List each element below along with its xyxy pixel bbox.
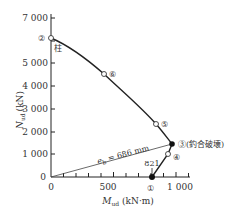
y-tick-0: 0 bbox=[40, 172, 46, 182]
point-6 bbox=[102, 72, 107, 77]
label-point-3: ③(釣合破壊) bbox=[178, 139, 224, 149]
x-tick-1000: 1 000 bbox=[167, 182, 193, 192]
point-1 bbox=[149, 174, 155, 180]
point-3 bbox=[169, 141, 175, 147]
x-tick-500: 500 bbox=[99, 182, 116, 192]
y-axis-label: Nud(kN) bbox=[15, 91, 26, 130]
eb-label: eb = 686 mm bbox=[96, 143, 151, 167]
interaction-chart: 7 000 5 000 4 000 3 000 2 000 1 000 0 0 … bbox=[0, 0, 240, 217]
point-5 bbox=[154, 122, 159, 127]
y-tick-7000: 7 000 bbox=[22, 13, 48, 23]
label-point-4: ④ bbox=[173, 153, 180, 162]
label-point-5: ⑤ bbox=[161, 120, 168, 129]
x-ticks bbox=[64, 172, 189, 177]
point-4 bbox=[166, 152, 171, 157]
x-axis-label: Mud(kN·m) bbox=[101, 196, 154, 207]
y-tick-2000: 2 000 bbox=[22, 127, 48, 137]
label-point-1: ① bbox=[147, 184, 154, 193]
point-2 bbox=[49, 36, 54, 41]
label-point-2: ② bbox=[38, 34, 45, 43]
label-column: 柱 bbox=[54, 43, 62, 53]
value-821-label: 821 bbox=[144, 159, 159, 168]
x-tick-0: 0 bbox=[48, 182, 54, 192]
y-tick-3000: 3 000 bbox=[22, 104, 48, 114]
label-point-6: ⑥ bbox=[109, 70, 116, 79]
y-tick-4000: 4 000 bbox=[22, 81, 48, 91]
y-tick-1000: 1 000 bbox=[22, 149, 48, 159]
y-tick-5000: 5 000 bbox=[22, 58, 48, 68]
